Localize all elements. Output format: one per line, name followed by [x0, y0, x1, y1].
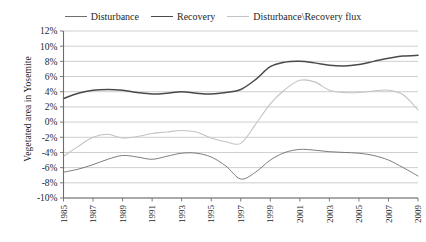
y-tick-label: 2%	[45, 102, 58, 112]
x-tick-label: 1989	[118, 205, 128, 224]
y-tick-label: -2%	[42, 133, 58, 143]
x-tick-label: 1997	[236, 205, 246, 224]
plot-area: 12%10%8%6%4%2%0%-2%-4%-6%-8%-10% 1985198…	[0, 0, 426, 242]
y-tick-label: 10%	[40, 42, 58, 52]
x-tick-label: 2009	[413, 205, 423, 224]
y-tick-label: 12%	[40, 26, 58, 36]
y-tick-label: -8%	[42, 178, 58, 188]
x-tick-label: 2001	[295, 205, 305, 223]
y-tick-label: 4%	[45, 87, 58, 97]
x-tick-labels: 1985198719891991199319951997199920012003…	[59, 205, 424, 224]
x-tick-label: 1985	[59, 205, 69, 224]
y-tick-label: -6%	[42, 163, 58, 173]
x-tick-label: 1991	[147, 205, 157, 223]
x-tick-label: 1999	[265, 205, 275, 224]
x-tick-label: 1995	[206, 205, 216, 224]
chart-figure: Disturbance Recovery Disturbance\Recover…	[0, 0, 426, 242]
chart-svg: 12%10%8%6%4%2%0%-2%-4%-6%-8%-10% 1985198…	[0, 0, 426, 242]
series-line	[64, 149, 419, 179]
y-tick-label: -4%	[42, 148, 58, 158]
y-tick-label: -10%	[37, 193, 58, 203]
x-tick-label: 2005	[354, 205, 364, 224]
gridlines	[64, 31, 419, 198]
x-tick-label: 1987	[88, 205, 98, 224]
series-line	[64, 80, 419, 156]
x-tick-label: 2003	[325, 205, 335, 224]
data-series	[64, 55, 419, 179]
y-tick-labels: 12%10%8%6%4%2%0%-2%-4%-6%-8%-10%	[37, 26, 58, 203]
y-tick-label: 8%	[45, 57, 58, 67]
x-tick-label: 1993	[177, 205, 187, 224]
y-tick-label: 0%	[45, 117, 58, 127]
y-tick-label: 6%	[45, 72, 58, 82]
x-tick-label: 2007	[384, 205, 394, 224]
